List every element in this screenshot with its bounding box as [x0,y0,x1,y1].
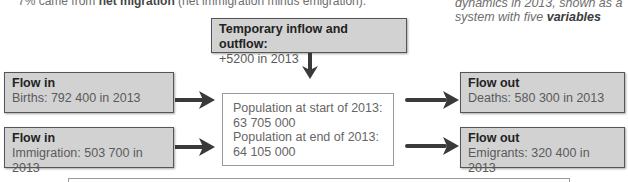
population-start-label: Population at start of 2013: [233,101,383,116]
temporary-flow-box: Temporary inflow and outflow: +5200 in 2… [211,18,407,53]
arrow-right-icon [175,138,215,156]
caption-right-line1: dynamics in 2013, shown as a [455,0,628,10]
flow-in-immigration-box: Flow in Immigration: 503 700 in 2013 [4,127,174,168]
caption-right-variables: variables [547,10,601,24]
population-box: Population at start of 2013: 63 705 000 … [222,93,394,166]
flow-out-deaths-box: Flow out Deaths: 580 300 in 2013 [460,72,625,113]
caption-top-prefix: 7% came from [18,0,99,8]
flow-in-title: Flow in [12,76,166,91]
caption-right: dynamics in 2013, shown as a system with… [455,0,628,24]
flow-in-value: Births: 792 400 in 2013 [12,91,166,106]
arrow-down-icon [302,53,318,79]
population-end-label: Population at end of 2013: [233,130,383,145]
population-start-value: 63 705 000 [233,116,383,131]
caption-top-bold: net migration [99,0,175,8]
caption-top: 7% came from net migration (net immigrat… [18,0,366,8]
flow-out-value: Deaths: 580 300 in 2013 [468,91,617,106]
caption-right-line2: system with five variables [455,10,628,24]
flow-in-births-box: Flow in Births: 792 400 in 2013 [4,72,174,113]
arrow-right-icon [405,137,459,155]
arrow-right-icon [405,91,459,109]
bottom-frame [68,178,570,182]
flow-in-value: Immigration: 503 700 in 2013 [12,146,166,176]
flow-out-title: Flow out [468,76,617,91]
flow-out-emigrants-box: Flow out Emigrants: 320 400 in 2013 [460,127,625,168]
flow-in-title: Flow in [12,131,166,146]
temporary-flow-title: Temporary inflow and outflow: [219,22,399,52]
caption-top-suffix: (net immigration minus emigration). [175,0,366,8]
population-end-value: 64 105 000 [233,145,383,160]
flow-out-value: Emigrants: 320 400 in 2013 [468,146,617,176]
caption-right-line2-prefix: system with five [455,10,547,24]
flow-out-title: Flow out [468,131,617,146]
arrow-right-icon [175,91,215,109]
